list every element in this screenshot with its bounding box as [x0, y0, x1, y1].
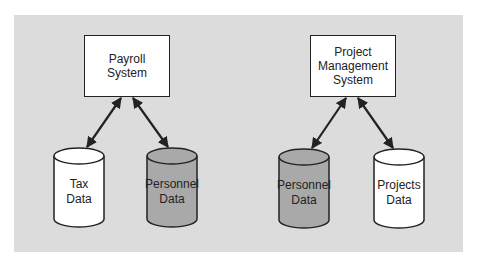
projects-data-line-2: Data: [363, 193, 435, 208]
arrow-project-personnel: [312, 98, 346, 148]
projects-data-cylinder: Projects Data: [373, 148, 425, 230]
personnel-right-line-2: Data: [268, 193, 340, 208]
tax-data-cylinder: Tax Data: [53, 147, 105, 229]
arrow-payroll-tax: [87, 98, 121, 147]
arrow-project-projects: [358, 98, 393, 148]
projects-data-line-1: Projects: [363, 178, 435, 193]
personnel-data-cylinder-left: Personnel Data: [146, 147, 198, 229]
personnel-left-line-1: Personnel: [136, 177, 208, 192]
personnel-left-line-2: Data: [136, 192, 208, 207]
personnel-right-line-1: Personnel: [268, 178, 340, 193]
arrow-payroll-personnel: [133, 98, 168, 147]
personnel-data-cylinder-right: Personnel Data: [278, 148, 330, 230]
tax-data-line-1: Tax: [43, 177, 115, 192]
tax-data-line-2: Data: [43, 192, 115, 207]
